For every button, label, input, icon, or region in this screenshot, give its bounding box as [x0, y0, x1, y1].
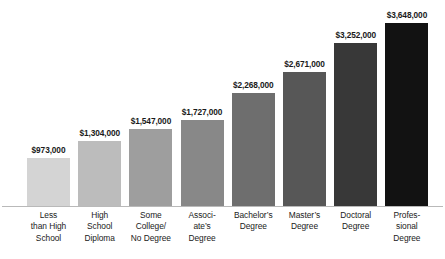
category-label-line: Degree — [329, 221, 382, 232]
category-label-line: Degree — [278, 221, 331, 232]
bar-group[interactable]: $973,000 — [27, 1, 70, 207]
category-label-line: School — [22, 233, 75, 244]
bar-group[interactable]: $3,648,000 — [385, 1, 428, 207]
category-axis: Lessthan HighSchoolHighSchoolDiplomaSome… — [0, 210, 445, 259]
category-label-line: Degree — [176, 233, 229, 244]
bar-value-label: $2,268,000 — [233, 80, 274, 90]
category-label-line: ate’s — [176, 221, 229, 232]
category-label-line: School — [73, 221, 126, 232]
category-label-line: than High — [22, 221, 75, 232]
category-label: Lessthan HighSchool — [22, 210, 75, 244]
category-label-line: Degree — [380, 233, 433, 244]
bar[interactable] — [283, 72, 326, 207]
category-label: Associ-ate’sDegree — [176, 210, 229, 244]
bar[interactable] — [334, 43, 377, 207]
category-label-line: Master’s — [278, 210, 331, 221]
bar[interactable] — [78, 141, 121, 207]
bar[interactable] — [181, 120, 224, 207]
bar-group[interactable]: $2,671,000 — [283, 1, 326, 207]
axis-baseline — [2, 206, 443, 207]
category-label: HighSchoolDiploma — [73, 210, 126, 244]
category-label-line: Doctoral — [329, 210, 382, 221]
category-label: SomeCollege/No Degree — [124, 210, 177, 244]
bar-group[interactable]: $2,268,000 — [232, 1, 275, 207]
category-label-line: High — [73, 210, 126, 221]
category-label: Master’sDegree — [278, 210, 331, 233]
bar[interactable] — [129, 129, 172, 207]
bar-value-label: $3,648,000 — [387, 10, 428, 20]
category-label-line: Some — [124, 210, 177, 221]
category-label-line: Profes- — [380, 210, 433, 221]
category-label-line: Diploma — [73, 233, 126, 244]
category-label: DoctoralDegree — [329, 210, 382, 233]
bar-chart: $973,000$1,304,000$1,547,000$1,727,000$2… — [0, 0, 445, 259]
bar[interactable] — [27, 158, 70, 207]
bar-value-label: $2,671,000 — [284, 59, 325, 69]
bar-value-label: $1,547,000 — [131, 116, 172, 126]
category-label: Profes-sionalDegree — [380, 210, 433, 244]
category-label-line: Degree — [227, 221, 280, 232]
bar-group[interactable]: $1,727,000 — [181, 1, 224, 207]
plot-area: $973,000$1,304,000$1,547,000$1,727,000$2… — [0, 0, 445, 207]
category-label-line: sional — [380, 221, 433, 232]
category-label-line: Associ- — [176, 210, 229, 221]
bar-value-label: $3,252,000 — [335, 30, 376, 40]
category-label-line: Less — [22, 210, 75, 221]
category-label: Bachelor’sDegree — [227, 210, 280, 233]
category-label-line: No Degree — [124, 233, 177, 244]
bar[interactable] — [385, 23, 428, 207]
bar-group[interactable]: $1,304,000 — [78, 1, 121, 207]
bar-value-label: $1,304,000 — [79, 128, 120, 138]
category-label-line: Bachelor’s — [227, 210, 280, 221]
bar-value-label: $1,727,000 — [182, 107, 223, 117]
bar-value-label: $973,000 — [32, 145, 66, 155]
bar[interactable] — [232, 93, 275, 207]
bar-group[interactable]: $1,547,000 — [129, 1, 172, 207]
bar-group[interactable]: $3,252,000 — [334, 1, 377, 207]
category-label-line: College/ — [124, 221, 177, 232]
